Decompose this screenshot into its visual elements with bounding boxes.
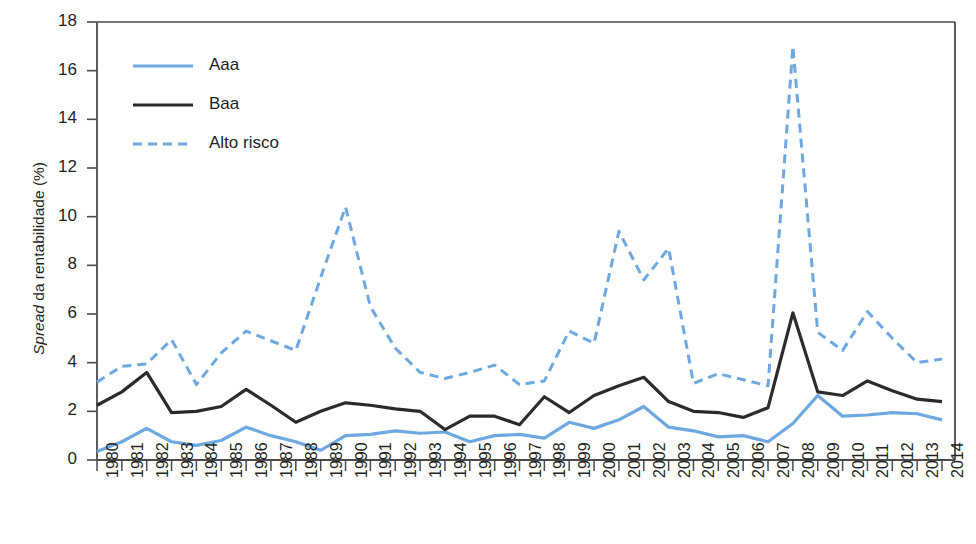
series-line-baa [97,313,942,430]
x-axis-tick-label: 1998 [551,442,569,478]
x-axis-tick-label: 2001 [626,442,644,478]
x-axis-tick-label: 1992 [402,442,420,478]
y-axis-title-italic-word: Spread [30,305,47,355]
legend-label-aaa: Aaa [209,55,239,75]
x-axis-tick-label: 1980 [104,442,122,478]
x-axis-tick-label: 1996 [502,442,520,478]
x-axis-tick-label: 1997 [527,442,545,478]
x-axis-tick-label: 1991 [377,442,395,478]
legend-swatches [133,66,193,144]
x-axis-tick-label: 2009 [825,442,843,478]
x-axis-tick-label: 2014 [949,442,967,478]
x-axis-tick-label: 2002 [651,442,669,478]
x-axis-tick-label: 2010 [850,442,868,478]
x-axis-tick-label: 1989 [328,442,346,478]
x-axis-tick-label: 1999 [576,442,594,478]
x-axis-tick-label: 2006 [750,442,768,478]
chart-container: 024681012141618 198019811982198319841985… [0,0,976,544]
x-axis-tick-label: 2011 [874,444,892,478]
y-axis-title: Spread da rentabilidade (%) [30,162,48,355]
x-axis-tick-label: 1988 [303,442,321,478]
y-axis-tick-label: 16 [33,60,77,80]
legend-label-baa: Baa [209,94,239,114]
x-axis-tick-label: 2012 [899,442,917,478]
x-axis-tick-label: 1987 [278,442,296,478]
y-axis-tick-label: 2 [33,400,77,420]
x-axis-tick-label: 1995 [477,442,495,478]
x-axis-tick-label: 1981 [129,442,147,478]
x-axis-tick-label: 1986 [253,442,271,478]
x-axis-tick-label: 2004 [700,442,718,478]
x-axis-tick-label: 2000 [601,442,619,478]
y-axis-tick-label: 14 [33,108,77,128]
x-axis-tick-label: 1994 [452,442,470,478]
legend-label-alto-risco: Alto risco [209,133,279,153]
x-axis-tick-label: 2003 [676,442,694,478]
x-axis-tick-label: 1990 [353,442,371,478]
chart-axes [87,22,955,471]
x-axis-tick-label: 2008 [800,442,818,478]
x-axis-tick-label: 2005 [725,442,743,478]
x-axis-tick-label: 2013 [924,442,942,478]
x-axis-tick-label: 1983 [179,442,197,478]
x-axis-tick-label: 1985 [228,442,246,478]
x-axis-tick-label: 1982 [154,442,172,478]
x-axis-tick-label: 1984 [203,442,221,478]
x-axis-tick-label: 2007 [775,442,793,478]
y-axis-tick-label: 18 [33,11,77,31]
y-axis-title-rest: da rentabilidade (%) [30,162,47,305]
y-axis-tick-label: 0 [33,449,77,469]
x-axis-tick-label: 1993 [427,442,445,478]
